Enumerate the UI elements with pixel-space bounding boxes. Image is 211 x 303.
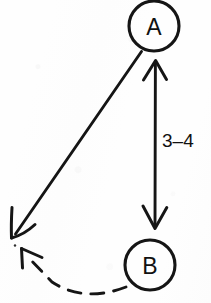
edge-a-outward-barb-right [12, 225, 36, 239]
node-a[interactable]: A [129, 1, 179, 51]
diagram-svg: A B 3–4 [0, 0, 211, 303]
edge-b-outward-barb-left [22, 249, 23, 269]
node-a-label: A [146, 14, 162, 40]
edge-b-outward-dashed-shaft [27, 256, 126, 294]
edge-b-outward-barb-right [22, 249, 43, 258]
edge-a-outward-shaft [16, 52, 142, 235]
edge-a-outward-arrow[interactable] [11, 52, 141, 239]
edge-distance-label: 3–4 [162, 130, 194, 151]
edge-b-outward-dashed-arrow[interactable] [22, 249, 127, 294]
node-b[interactable]: B [125, 240, 175, 290]
node-b-label: B [142, 253, 157, 279]
edge-a-outward-barb-left [11, 208, 12, 239]
stray-ink-speck [14, 244, 16, 246]
diagram-canvas: A B 3–4 [0, 0, 211, 303]
